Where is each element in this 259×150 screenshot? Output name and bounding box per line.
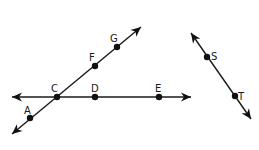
labels-layer: ACDEFGST: [24, 33, 245, 116]
point-e: [156, 94, 162, 100]
arrowhead-icon: [12, 124, 23, 134]
point-f: [92, 63, 98, 69]
line-CE: [12, 93, 191, 102]
line-ST: [191, 33, 251, 119]
arrowhead-icon: [130, 27, 141, 37]
point-c: [54, 94, 60, 100]
point-label-d: D: [91, 83, 99, 94]
point-s: [204, 54, 210, 60]
point-d: [92, 94, 98, 100]
point-g: [114, 44, 120, 50]
arrowhead-icon: [191, 33, 200, 44]
point-label-g: G: [110, 33, 118, 44]
point-label-s: S: [211, 51, 217, 62]
lines-layer: [12, 27, 251, 134]
point-label-a: A: [24, 105, 31, 116]
point-label-f: F: [89, 52, 95, 63]
geometry-diagram: ACDEFGST: [0, 0, 259, 150]
point-label-t: T: [237, 91, 245, 102]
points-layer: [27, 44, 238, 121]
point-label-c: C: [51, 83, 58, 94]
line-ST-segment: [191, 33, 251, 119]
arrowhead-icon: [242, 108, 251, 119]
point-label-e: E: [155, 83, 161, 94]
